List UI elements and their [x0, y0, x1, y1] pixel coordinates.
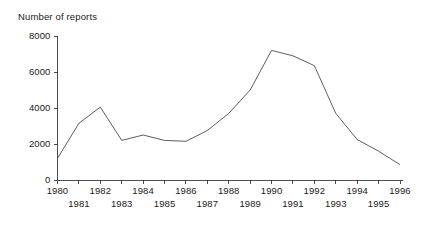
- y-tick-marks: [54, 37, 58, 181]
- x-tick-label: 1981: [68, 198, 90, 209]
- y-tick-label: 8000: [29, 30, 51, 41]
- x-tick-label: 1986: [175, 185, 197, 196]
- x-tick-label: 1982: [90, 185, 112, 196]
- data-series-line: [58, 50, 401, 164]
- x-tick-label: 1985: [154, 198, 176, 209]
- x-tick-label: 1987: [197, 198, 219, 209]
- x-tick-label: 1989: [239, 198, 261, 209]
- x-tick-label: 1980: [47, 185, 69, 196]
- y-tick-label: 0: [45, 174, 50, 185]
- y-tick-label: 2000: [29, 138, 51, 149]
- x-tick-label: 1984: [132, 185, 154, 196]
- y-axis-group: 02000400060008000: [29, 30, 58, 185]
- x-axis-group: 1980198119821983198419851986198719881989…: [47, 180, 411, 209]
- x-tick-labels: 1980198119821983198419851986198719881989…: [47, 185, 411, 209]
- x-tick-label: 1993: [325, 198, 347, 209]
- x-tick-label: 1996: [389, 185, 411, 196]
- x-tick-label: 1995: [368, 198, 390, 209]
- x-tick-label: 1994: [346, 185, 368, 196]
- line-chart-plot: 02000400060008000 1980198119821983198419…: [0, 0, 430, 228]
- x-tick-label: 1983: [111, 198, 133, 209]
- x-tick-label: 1991: [282, 198, 304, 209]
- x-tick-label: 1988: [218, 185, 240, 196]
- y-tick-labels: 02000400060008000: [29, 30, 51, 185]
- x-tick-label: 1990: [261, 185, 283, 196]
- y-tick-label: 4000: [29, 102, 51, 113]
- x-tick-label: 1992: [304, 185, 326, 196]
- y-tick-label: 6000: [29, 66, 51, 77]
- chart-figure: Number of reports 02000400060008000 1980…: [0, 0, 430, 228]
